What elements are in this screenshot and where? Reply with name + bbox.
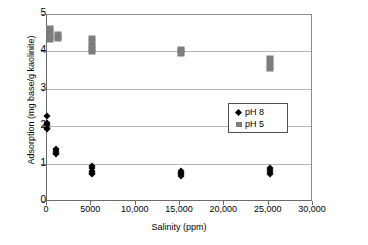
y-axis-tick-mark — [41, 164, 46, 165]
gridline — [47, 89, 311, 90]
legend-item-ph5[interactable]: pH 5 — [233, 118, 284, 130]
square-marker-icon — [233, 122, 244, 127]
x-axis-tick-mark — [46, 201, 47, 205]
gridline — [47, 164, 311, 165]
y-axis-tick-mark — [41, 126, 46, 127]
x-axis-tick-mark — [268, 201, 269, 205]
legend-label-ph5: pH 5 — [244, 119, 264, 130]
y-axis-tick-mark — [41, 51, 46, 52]
x-axis-tick-label: 15,000 — [165, 204, 193, 214]
legend-label-ph8: pH 8 — [244, 107, 264, 118]
x-axis-tick-mark — [179, 201, 180, 205]
legend-item-ph8[interactable]: pH 8 — [233, 106, 284, 118]
y-axis-tick-label: 1 — [22, 158, 46, 168]
y-axis-tick-label: 4 — [22, 45, 46, 55]
x-axis-title: Salinity (ppm) — [46, 222, 312, 232]
x-axis-tick-label: 0 — [43, 204, 48, 214]
diamond-marker-icon — [233, 110, 244, 115]
x-axis-tick-label: 25,000 — [254, 204, 282, 214]
x-axis-tick-mark — [312, 201, 313, 205]
data-point-ph5 — [54, 36, 61, 41]
data-point-ph5 — [267, 67, 274, 72]
x-axis-tick-mark — [135, 201, 136, 205]
y-axis-tick-mark — [41, 14, 46, 15]
adsorption-salinity-scatter-chart: Adsorption (mg base/g kaolinite) Salinit… — [0, 0, 368, 245]
y-axis-tick-mark — [41, 89, 46, 90]
y-axis-tick-label: 5 — [22, 8, 46, 18]
data-point-ph5 — [177, 51, 184, 56]
data-point-ph5 — [46, 37, 53, 42]
chart-legend: pH 8 pH 5 — [228, 103, 288, 133]
y-axis-tick-label: 0 — [22, 195, 46, 205]
y-axis-tick-label: 2 — [22, 120, 46, 130]
data-point-ph5 — [89, 50, 96, 55]
x-axis-tick-label: 5000 — [80, 204, 100, 214]
x-axis-tick-label: 30,000 — [298, 204, 326, 214]
y-axis-tick-label: 3 — [22, 83, 46, 93]
x-axis-tick-label: 10,000 — [121, 204, 149, 214]
x-axis-tick-mark — [223, 201, 224, 205]
x-axis-tick-label: 20,000 — [210, 204, 238, 214]
x-axis-tick-mark — [90, 201, 91, 205]
